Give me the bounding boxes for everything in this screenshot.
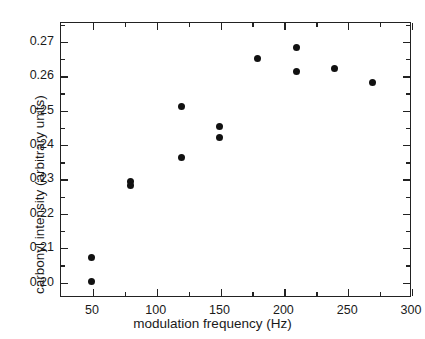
axis-tick xyxy=(61,248,68,249)
axis-tick xyxy=(284,289,285,296)
axis-tick xyxy=(61,179,68,180)
axis-tick xyxy=(348,289,349,296)
axis-tick xyxy=(125,292,126,296)
axis-tick xyxy=(61,111,68,112)
data-point xyxy=(178,103,185,110)
axis-tick xyxy=(284,23,285,30)
axis-tick xyxy=(348,23,349,30)
axis-tick xyxy=(221,289,222,296)
axis-tick xyxy=(412,23,413,30)
axis-tick xyxy=(189,23,190,27)
scatter-chart-figure: 50100150200250300 0.200.210.220.230.240.… xyxy=(0,0,425,339)
axis-tick xyxy=(406,93,410,94)
y-axis-title-wrapper: carbonyl intensity (arbitrary units) xyxy=(18,24,34,294)
axis-tick xyxy=(252,23,253,27)
axis-tick xyxy=(61,265,65,266)
axis-tick xyxy=(380,292,381,296)
x-tick-label: 200 xyxy=(273,304,294,317)
axis-tick xyxy=(406,231,410,232)
data-point xyxy=(127,182,134,189)
axis-tick xyxy=(61,128,65,129)
axis-tick xyxy=(61,145,68,146)
axis-tick xyxy=(61,93,65,94)
axis-tick xyxy=(157,23,158,30)
data-point xyxy=(254,55,261,62)
axis-tick xyxy=(412,289,413,296)
axis-tick xyxy=(406,25,410,26)
y-axis-title: carbonyl intensity (arbitrary units) xyxy=(32,95,47,294)
axis-tick xyxy=(61,42,68,43)
axis-tick xyxy=(406,128,410,129)
x-tick-label: 250 xyxy=(337,304,358,317)
axis-tick xyxy=(403,145,410,146)
axis-tick xyxy=(61,25,65,26)
axis-tick xyxy=(252,292,253,296)
axis-tick xyxy=(406,162,410,163)
axis-tick xyxy=(157,289,158,296)
axis-tick xyxy=(380,23,381,27)
x-tick-label: 50 xyxy=(85,304,99,317)
x-tick-label: 300 xyxy=(401,304,422,317)
axis-tick xyxy=(189,292,190,296)
axis-tick xyxy=(93,23,94,30)
axis-tick xyxy=(61,59,65,60)
axis-tick xyxy=(61,283,68,284)
axis-tick xyxy=(61,197,65,198)
axis-tick xyxy=(403,179,410,180)
x-tick-label: 150 xyxy=(209,304,230,317)
axis-tick xyxy=(61,214,68,215)
axis-tick xyxy=(406,197,410,198)
axis-tick xyxy=(403,214,410,215)
axis-tick xyxy=(61,162,65,163)
axis-tick xyxy=(316,292,317,296)
axis-tick xyxy=(61,231,65,232)
data-point xyxy=(369,79,376,86)
data-point xyxy=(293,68,300,75)
axis-tick xyxy=(316,23,317,27)
data-point xyxy=(216,134,223,141)
plot-area xyxy=(60,22,411,297)
axis-tick xyxy=(403,76,410,77)
axis-tick xyxy=(125,23,126,27)
data-point xyxy=(331,65,338,72)
x-axis-title: modulation frequency (Hz) xyxy=(0,317,425,331)
axis-tick xyxy=(93,289,94,296)
axis-tick xyxy=(403,283,410,284)
axis-tick xyxy=(61,76,68,77)
axis-tick xyxy=(406,59,410,60)
axis-tick xyxy=(403,111,410,112)
axis-tick xyxy=(221,23,222,30)
axis-tick xyxy=(403,42,410,43)
axis-tick xyxy=(406,265,410,266)
axis-tick xyxy=(403,248,410,249)
x-tick-label: 100 xyxy=(145,304,166,317)
data-point xyxy=(178,154,185,161)
data-point xyxy=(293,44,300,51)
